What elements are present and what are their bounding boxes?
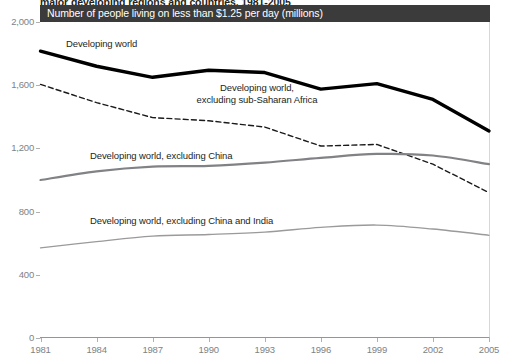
series-line-3 (41, 225, 490, 248)
excl-ssa-line1: Developing world, (220, 82, 294, 93)
chart-figure: major developing regions and countries, … (0, 0, 507, 363)
series-label-developing-world: Developing world (66, 38, 137, 50)
series-label-excluding-china: Developing world, excluding China (90, 150, 232, 162)
series-label-excluding-sub-saharan-africa: Developing world, excluding sub-Saharan … (182, 82, 332, 105)
data-lines (0, 0, 507, 363)
excl-ssa-line2: excluding sub-Saharan Africa (197, 94, 318, 105)
series-label-excluding-china-and-india: Developing world, excluding China and In… (90, 215, 273, 227)
